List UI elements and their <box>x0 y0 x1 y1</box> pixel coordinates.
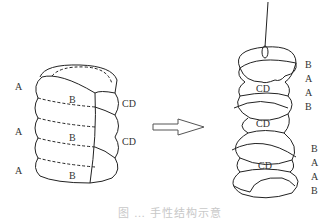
label-side-bottom-a1: A <box>311 158 318 168</box>
figure-caption: 图 … 手性结构示意 <box>95 204 245 219</box>
label-side-top-a2: A <box>305 88 312 98</box>
label-side-bottom-b2: B <box>311 186 318 196</box>
label-b-3: B <box>69 171 76 181</box>
diagram-root: A A A B B B CD CD CD CD CD B A A B B A A… <box>0 0 330 219</box>
hollow-arrow <box>153 119 204 135</box>
label-side-top-a1: A <box>305 74 312 84</box>
diagram-drawing <box>0 0 330 219</box>
label-a-2: A <box>15 127 22 137</box>
label-side-top-b1: B <box>305 60 312 70</box>
label-a-1: A <box>15 82 22 92</box>
label-cd-right-1: CD <box>256 84 270 94</box>
label-side-top-b2: B <box>305 102 312 112</box>
label-a-3: A <box>15 166 22 176</box>
label-b-2: B <box>69 133 76 143</box>
label-side-bottom-b1: B <box>311 144 318 154</box>
label-cd-1: CD <box>122 99 136 109</box>
label-b-1: B <box>69 95 76 105</box>
label-cd-2: CD <box>122 137 136 147</box>
label-cd-right-2: CD <box>256 119 270 129</box>
label-side-bottom-a2: A <box>311 172 318 182</box>
label-cd-right-3: CD <box>258 161 272 171</box>
stacked-cylinder <box>35 65 119 183</box>
